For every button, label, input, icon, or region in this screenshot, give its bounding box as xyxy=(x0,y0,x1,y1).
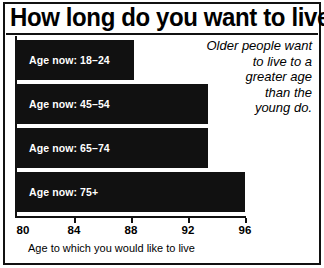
x-axis-tick-label: 88 xyxy=(125,224,138,236)
bar-item: Age now: 75+ xyxy=(17,172,245,212)
x-axis-tick xyxy=(245,218,247,223)
x-axis-tick-label: 96 xyxy=(239,224,252,236)
y-axis-spine xyxy=(15,36,17,216)
chart-figure: How long do you want to live? Older peop… xyxy=(0,0,324,268)
x-axis-tick xyxy=(131,218,133,223)
x-axis-tick-label: 84 xyxy=(68,224,81,236)
x-axis-tick-label: 80 xyxy=(17,224,30,236)
bar-item: Age now: 45–54 xyxy=(17,84,208,124)
bar-group: Age now: 18–24 Age now: 45–54 Age now: 6… xyxy=(0,36,324,212)
title-divider xyxy=(6,33,318,35)
chart-title: How long do you want to live? xyxy=(10,4,298,31)
bar-label: Age now: 18–24 xyxy=(29,54,110,66)
x-axis-label: Age to which you would like to live xyxy=(28,242,195,254)
bar-label: Age now: 45–54 xyxy=(29,98,110,110)
bar-label: Age now: 65–74 xyxy=(29,142,110,154)
plot-area: Older people want to live to a greater a… xyxy=(0,36,324,268)
bar-label: Age now: 75+ xyxy=(29,186,98,198)
x-axis-tick-label: 92 xyxy=(182,224,195,236)
x-axis-tick xyxy=(188,218,190,223)
bar-item: Age now: 65–74 xyxy=(17,128,208,168)
bar-item: Age now: 18–24 xyxy=(17,40,134,80)
x-axis-tick xyxy=(74,218,76,223)
